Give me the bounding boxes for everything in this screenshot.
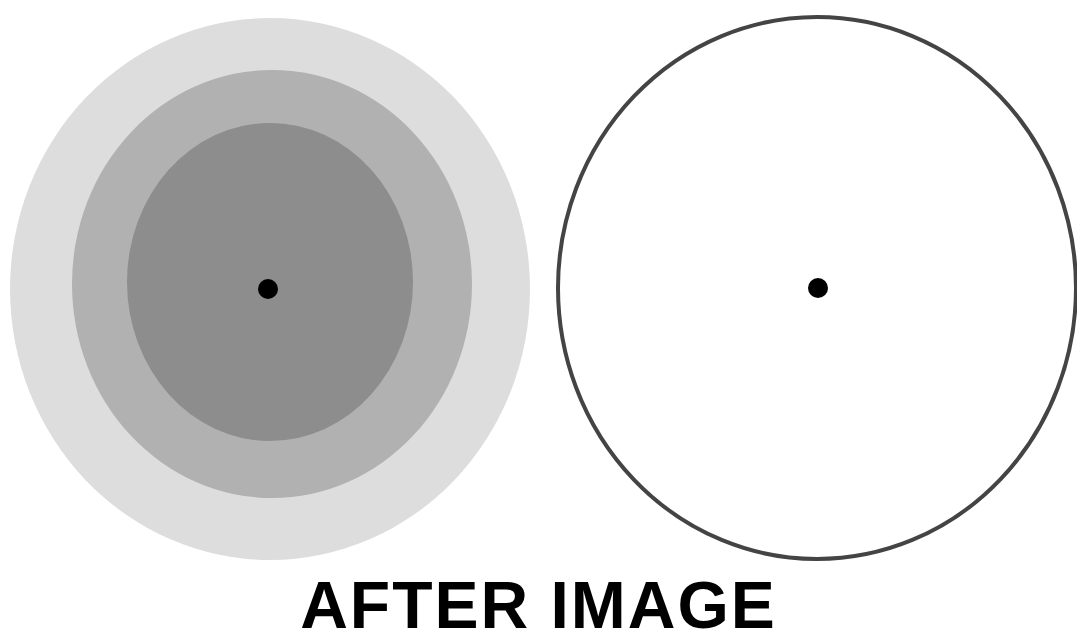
caption-title: AFTER IMAGE (0, 572, 1077, 633)
right-target (558, 17, 1076, 559)
right-fixation-dot (808, 278, 828, 298)
left-fixation-dot (258, 279, 278, 299)
left-target (10, 18, 530, 560)
